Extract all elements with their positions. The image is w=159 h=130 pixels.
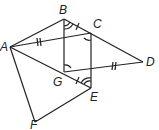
single-arc-G bbox=[64, 65, 71, 68]
point-label-C: C bbox=[93, 18, 102, 30]
point-label-D: D bbox=[146, 56, 155, 68]
point-label-B: B bbox=[59, 4, 67, 16]
geometry-diagram: A B C D G E F bbox=[0, 0, 159, 130]
point-label-A: A bbox=[0, 41, 8, 53]
segment-BD bbox=[64, 19, 143, 62]
segment-GD bbox=[64, 62, 143, 72]
double-arc-B bbox=[64, 22, 70, 26]
point-label-G: G bbox=[53, 76, 62, 88]
segment-AC bbox=[10, 33, 91, 47]
point-label-E: E bbox=[90, 91, 98, 103]
double-arc-E bbox=[84, 81, 91, 84]
point-label-F: F bbox=[30, 119, 37, 130]
diagram-figure bbox=[0, 0, 159, 130]
segment-FE bbox=[35, 88, 91, 122]
single-arc-C bbox=[84, 38, 91, 40]
